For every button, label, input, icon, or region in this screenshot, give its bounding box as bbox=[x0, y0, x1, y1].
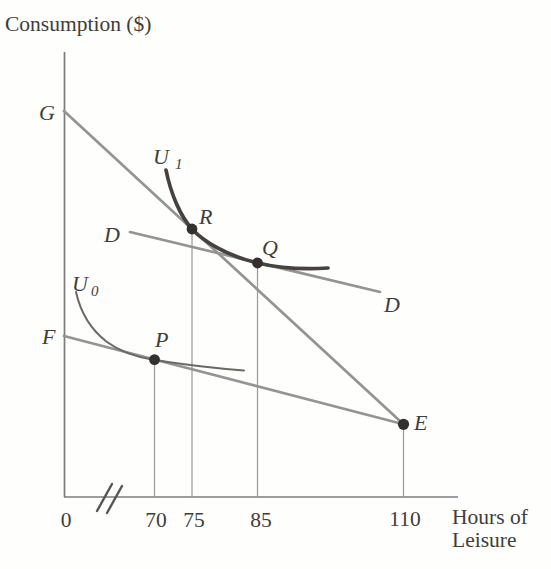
tick-label-110: 110 bbox=[389, 507, 420, 531]
point-F-label: F bbox=[41, 324, 56, 349]
x-axis-title-line1: Hours of bbox=[452, 505, 529, 529]
point-R-label: R bbox=[198, 204, 213, 229]
point-G-label: G bbox=[39, 100, 55, 125]
figure-svg: Consumption ($) Hours of Leisure 0 70 75… bbox=[0, 0, 551, 569]
curve-U0-subscript: 0 bbox=[91, 283, 99, 299]
tick-label-85: 85 bbox=[250, 508, 272, 532]
point-E-label: E bbox=[413, 410, 428, 435]
tick-label-70: 70 bbox=[145, 508, 167, 532]
point-Q-label: Q bbox=[262, 235, 278, 260]
y-axis-title: Consumption ($) bbox=[5, 12, 151, 36]
budget-line-FE bbox=[64, 336, 404, 424]
curve-U0-label: U bbox=[72, 271, 90, 296]
tick-label-0: 0 bbox=[61, 508, 72, 532]
line-D-right-label: D bbox=[383, 292, 400, 317]
point-P-label: P bbox=[154, 327, 168, 352]
point-P-dot bbox=[149, 354, 160, 365]
indifference-curve-figure: Consumption ($) Hours of Leisure 0 70 75… bbox=[0, 0, 551, 569]
point-R-dot bbox=[187, 224, 198, 235]
tick-label-75: 75 bbox=[183, 508, 205, 532]
point-E-dot bbox=[398, 419, 409, 430]
curve-U1-subscript: 1 bbox=[175, 156, 183, 172]
x-axis-title-line2: Leisure bbox=[452, 528, 516, 552]
indifference-curve-U1 bbox=[166, 170, 328, 269]
line-D-left-label: D bbox=[103, 222, 120, 247]
budget-line-GE bbox=[64, 111, 404, 424]
curve-U1-label: U bbox=[153, 144, 171, 169]
